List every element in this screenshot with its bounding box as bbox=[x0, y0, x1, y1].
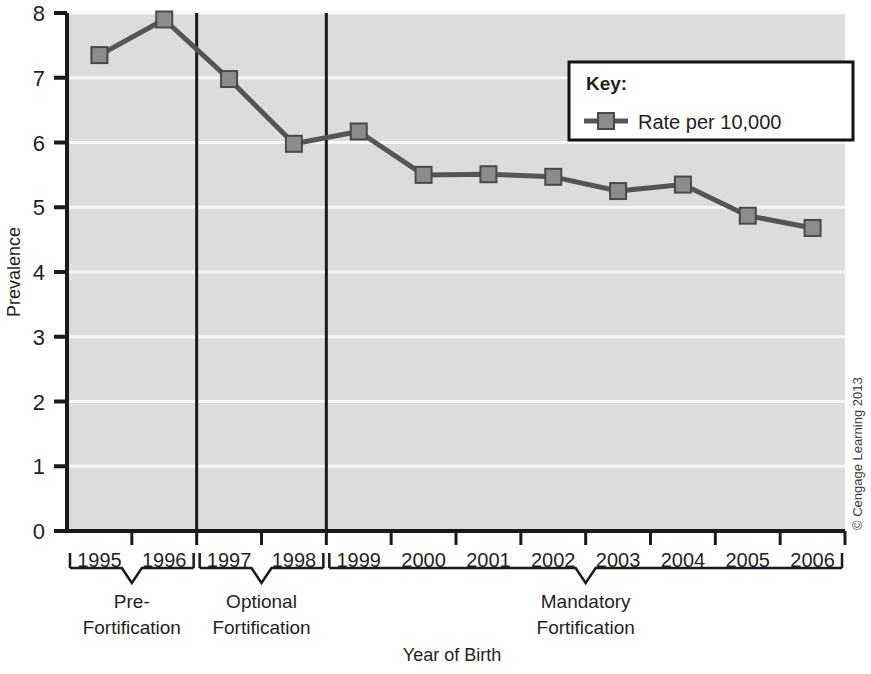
y-tick-label: 8 bbox=[33, 1, 45, 26]
x-axis-ticks bbox=[132, 531, 845, 545]
prevalence-line-chart: 012345678 199519961997199819992000200120… bbox=[0, 0, 871, 674]
copyright-credit: © Cengage Learning 2013 bbox=[850, 377, 865, 530]
y-tick-label: 5 bbox=[33, 195, 45, 220]
data-point-marker bbox=[805, 220, 821, 236]
y-tick-label: 4 bbox=[33, 260, 45, 285]
data-point-marker bbox=[416, 167, 432, 183]
period-label-pre-line2: Fortification bbox=[83, 617, 181, 638]
y-axis-ticks: 012345678 bbox=[33, 1, 67, 544]
data-point-marker bbox=[351, 123, 367, 139]
legend-square-marker bbox=[598, 113, 614, 129]
legend-entry-label: Rate per 10,000 bbox=[638, 111, 781, 133]
y-tick-label: 2 bbox=[33, 390, 45, 415]
y-tick-label: 7 bbox=[33, 66, 45, 91]
y-axis-title: Prevalence bbox=[4, 227, 24, 317]
data-point-marker bbox=[610, 183, 626, 199]
period-label-pre-line1: Pre- bbox=[114, 591, 150, 612]
data-point-marker bbox=[675, 177, 691, 193]
data-point-marker bbox=[480, 166, 496, 182]
data-point-marker bbox=[221, 71, 237, 87]
period-label-optional-line1: Optional bbox=[226, 591, 297, 612]
legend-key: Key: Rate per 10,000 bbox=[569, 62, 853, 140]
y-tick-label: 3 bbox=[33, 325, 45, 350]
period-label-optional-line2: Fortification bbox=[212, 617, 310, 638]
data-point-marker bbox=[545, 169, 561, 185]
data-point-marker bbox=[740, 208, 756, 224]
period-group-labels: Pre- Fortification Optional Fortificatio… bbox=[83, 591, 635, 638]
x-axis-title: Year of Birth bbox=[403, 645, 501, 665]
y-tick-label: 0 bbox=[33, 519, 45, 544]
data-point-marker bbox=[91, 47, 107, 63]
y-tick-label: 1 bbox=[33, 454, 45, 479]
data-point-marker bbox=[156, 11, 172, 27]
chart-figure: 012345678 199519961997199819992000200120… bbox=[0, 0, 871, 674]
period-label-mandatory-line2: Fortification bbox=[537, 617, 635, 638]
y-tick-label: 6 bbox=[33, 131, 45, 156]
legend-title: Key: bbox=[586, 73, 627, 94]
data-point-marker bbox=[286, 136, 302, 152]
period-label-mandatory-line1: Mandatory bbox=[541, 591, 631, 612]
